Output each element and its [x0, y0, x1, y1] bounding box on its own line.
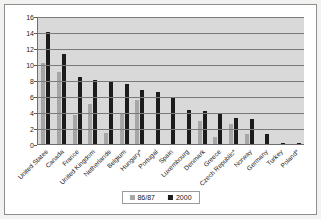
x-axis-label-cell: Czech Republic*: [225, 146, 241, 196]
x-axis-label-cell: Hungary*: [131, 146, 147, 196]
gridline: [38, 65, 304, 66]
bar: [234, 118, 238, 144]
y-tick-label: 14: [26, 30, 34, 37]
bar: [245, 134, 249, 144]
legend-swatch-icon: [129, 195, 134, 200]
x-axis-label-cell: Poland*: [288, 146, 304, 196]
gridline: [38, 17, 304, 18]
x-axis-label-cell: Germany: [257, 146, 273, 196]
gridline: [38, 97, 304, 98]
plot-area: [37, 17, 304, 145]
bar: [187, 110, 191, 144]
legend-swatch-icon: [168, 195, 173, 200]
figure-container: 1614121086420 United StatesCanadaFranceU…: [0, 0, 321, 219]
gridline: [38, 129, 304, 130]
y-axis: 1614121086420: [9, 9, 37, 145]
gridline: [38, 33, 304, 34]
gridline: [38, 49, 304, 50]
bar: [156, 92, 160, 144]
bar: [265, 134, 269, 144]
legend-label: 2000: [176, 194, 192, 201]
legend-label: 86/87: [137, 194, 155, 201]
bar-chart: 1614121086420 United StatesCanadaFranceU…: [9, 9, 312, 210]
bar: [41, 63, 45, 144]
bar: [297, 143, 301, 144]
gridline: [38, 81, 304, 82]
x-axis-label-cell: Turkey: [273, 146, 289, 196]
y-tick-label: 10: [26, 62, 34, 69]
bar: [78, 77, 82, 144]
bar: [88, 104, 92, 144]
gridline: [38, 113, 304, 114]
bar: [93, 80, 97, 144]
bar: [213, 137, 217, 144]
bar: [229, 124, 233, 144]
bar: [203, 111, 207, 144]
chart-legend: 86/872000: [121, 191, 199, 204]
bar: [104, 133, 108, 144]
bar: [125, 84, 129, 144]
x-axis-label-cell: Netherlands: [100, 146, 116, 196]
legend-item[interactable]: 86/87: [129, 194, 155, 201]
y-tick-label: 16: [26, 14, 34, 21]
x-axis-labels: United StatesCanadaFranceUnited KingdomN…: [37, 146, 304, 196]
bar: [62, 54, 66, 144]
bar: [198, 121, 202, 144]
x-axis-label-cell: United States: [37, 146, 53, 196]
bar: [57, 72, 61, 144]
bar: [171, 98, 175, 144]
bar: [281, 143, 285, 144]
y-tick-label: 12: [26, 46, 34, 53]
bar: [135, 100, 139, 144]
bar: [250, 119, 254, 144]
bar: [140, 90, 144, 144]
legend-item[interactable]: 2000: [168, 194, 192, 201]
